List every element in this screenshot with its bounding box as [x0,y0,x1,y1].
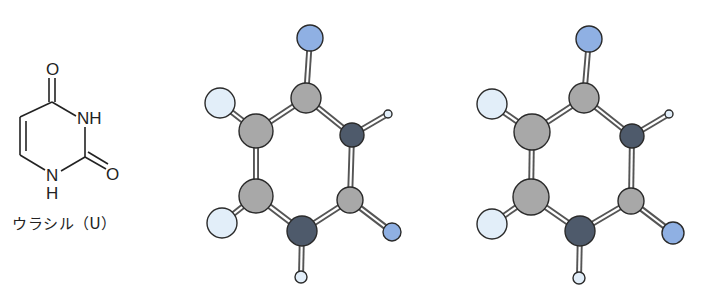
hydrogen-atom [477,89,507,119]
carbon-atom [569,83,599,113]
uracil-caption: ウラシル（U） [12,212,116,233]
oxygen-atom [297,25,323,51]
hydrogen-atom [384,110,392,118]
nitrogen-atom [565,216,595,246]
carbon-atom [513,179,549,215]
carbon-atom [291,83,321,113]
oxygen-atom [383,223,401,241]
atom-label-o-top: O [46,60,59,79]
atom-label-o-right: O [106,165,119,184]
hydrogen-atom [477,209,507,239]
oxygen-atom [662,222,684,244]
carbon-atom [239,114,273,148]
carbon-atom [514,114,550,150]
hydrogen-atom [573,272,585,284]
atom-label-n-bottom: N [46,166,58,185]
atom-label-h-bottom: H [46,184,58,203]
hydrogen-atom [207,208,237,238]
nitrogen-atom [287,216,317,246]
ball-and-stick-model-right [477,26,684,284]
nitrogen-atom [340,123,364,147]
ball-and-stick-models [205,25,684,284]
carbon-atom [239,179,273,213]
oxygen-atom [576,26,602,52]
atom-label-nh: NH [77,109,102,128]
ball-and-stick-model-left [205,25,401,283]
carbon-atom [618,188,644,214]
nitrogen-atom [620,124,644,148]
hydrogen-atom [295,271,307,283]
hydrogen-atom [205,88,235,118]
uracil-figure: O NH O N H [0,0,704,300]
carbon-atom [337,187,363,213]
hydrogen-atom [665,110,673,118]
